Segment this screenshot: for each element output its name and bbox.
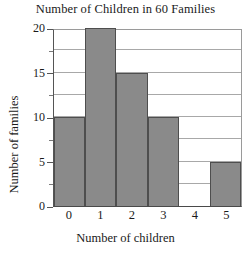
plot-area	[53, 29, 242, 207]
x-tick-label: 4	[179, 208, 211, 223]
bar	[116, 73, 147, 207]
x-axis-tick-labels: 012345	[53, 208, 242, 223]
x-tick-label: 0	[53, 208, 85, 223]
x-axis-label: Number of children	[0, 231, 251, 246]
chart-title: Number of Children in 60 Families	[0, 2, 251, 17]
bar-cell	[54, 30, 85, 206]
bar-cell	[179, 30, 210, 206]
y-tick-label: 20	[33, 21, 45, 36]
bar	[54, 117, 85, 206]
bar	[210, 162, 241, 207]
bar-cell	[116, 30, 147, 206]
x-tick-label: 2	[116, 208, 148, 223]
y-axis: Number of families 05101520	[0, 29, 53, 207]
bar-cell	[210, 30, 241, 206]
bar	[148, 117, 179, 206]
y-axis-label: Number of families	[7, 65, 22, 225]
x-tick-label: 5	[211, 208, 243, 223]
bar-cell	[85, 30, 116, 206]
bar	[85, 28, 116, 206]
bar-cell	[148, 30, 179, 206]
y-tick-label: 0	[39, 199, 45, 214]
bar-series	[54, 30, 241, 206]
y-tick-label: 15	[33, 66, 45, 81]
histogram-chart: Number of Children in 60 Families Number…	[0, 0, 251, 257]
y-tick-label: 10	[33, 110, 45, 125]
x-tick-label: 1	[85, 208, 117, 223]
x-tick-label: 3	[148, 208, 180, 223]
y-tick-label: 5	[39, 155, 45, 170]
